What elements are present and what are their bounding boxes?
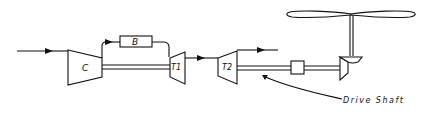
combustor: B xyxy=(120,36,152,47)
compressor-label: C xyxy=(82,63,89,73)
gearbox xyxy=(340,57,362,80)
gas-generator-shaft xyxy=(102,65,170,69)
rotor-mast xyxy=(350,15,353,56)
drive-shaft xyxy=(237,66,340,70)
rotor-blades xyxy=(287,11,415,17)
turboshaft-diagram: C B T1 T2 xyxy=(0,0,428,113)
drive-shaft-leader-arrow xyxy=(262,75,342,99)
turbine-t2-label: T2 xyxy=(222,63,232,72)
combustor-label: B xyxy=(132,37,138,47)
coupling xyxy=(291,61,304,74)
gas-generator-turbine: T1 xyxy=(170,52,185,84)
power-turbine: T2 xyxy=(218,51,237,84)
drive-shaft-label: Drive Shaft xyxy=(343,96,404,105)
turbine-t1-label: T1 xyxy=(171,63,181,72)
compressor: C xyxy=(68,50,102,85)
